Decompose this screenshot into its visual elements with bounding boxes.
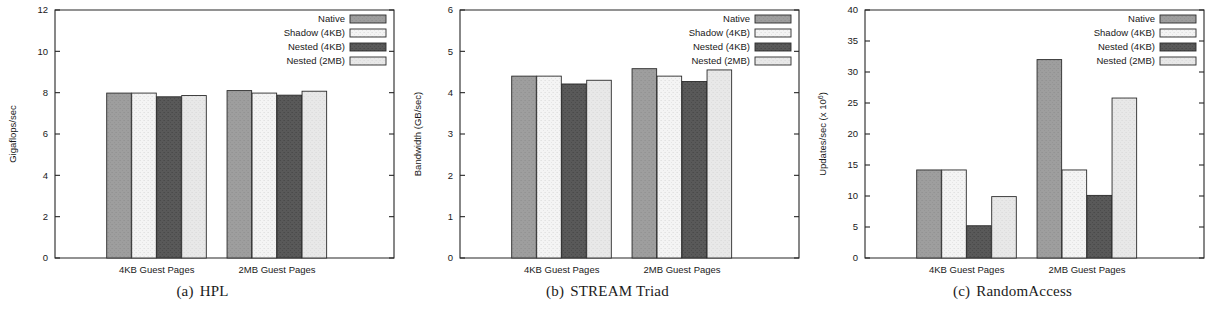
legend-swatch: [1160, 15, 1196, 23]
bar: [1112, 98, 1137, 258]
bar: [182, 96, 207, 258]
bar: [632, 69, 657, 258]
caption-text: RandomAccess: [976, 283, 1072, 299]
bar: [562, 84, 587, 258]
y-tick-label: 5: [853, 221, 858, 232]
plot-area-randomaccess: 0510152025303540Updates/sec (x 106)4KB G…: [810, 0, 1215, 280]
x-category-label: 4KB Guest Pages: [524, 264, 600, 275]
y-axis-title: Updates/sec (x 106): [817, 92, 829, 176]
caption-text: HPL: [200, 283, 229, 299]
legend-swatch: [350, 43, 386, 51]
panel-caption-randomaccess: (c)RandomAccess: [810, 283, 1215, 300]
bar: [132, 93, 157, 258]
panel-caption-hpl: (a)HPL: [0, 283, 405, 300]
bar: [1037, 60, 1062, 258]
legend-label: Native: [318, 13, 345, 24]
x-category-label: 2MB Guest Pages: [1048, 264, 1125, 275]
y-tick-label: 15: [847, 159, 858, 170]
bar: [107, 93, 132, 258]
bar: [967, 226, 992, 258]
y-tick-label: 25: [847, 97, 858, 108]
legend-label: Shadow (4KB): [1094, 27, 1155, 38]
x-category-label: 4KB Guest Pages: [119, 264, 195, 275]
bar: [1062, 170, 1087, 258]
y-tick-label: 0: [853, 252, 858, 263]
legend-label: Shadow (4KB): [284, 27, 345, 38]
bar: [512, 76, 537, 258]
caption-tag: (c): [953, 283, 970, 299]
figure-row: 024681012Gigaflops/sec4KB Guest Pages2MB…: [0, 0, 1215, 317]
y-axis-title: Bandwidth (GB/sec): [412, 92, 423, 176]
plot-area-hpl: 024681012Gigaflops/sec4KB Guest Pages2MB…: [0, 0, 405, 280]
legend-label: Nested (4KB): [1098, 41, 1155, 52]
y-tick-label: 4: [448, 87, 453, 98]
caption-text: STREAM Triad: [570, 283, 669, 299]
bar: [537, 76, 562, 258]
legend-swatch: [350, 29, 386, 37]
legend-swatch: [1160, 43, 1196, 51]
y-axis-title: Gigaflops/sec: [7, 105, 18, 163]
y-tick-label: 3: [448, 128, 453, 139]
legend-swatch: [1160, 29, 1196, 37]
bar: [1087, 195, 1112, 258]
y-tick-label: 30: [847, 66, 858, 77]
legend-label: Nested (2MB): [1096, 55, 1155, 66]
y-tick-label: 0: [43, 252, 48, 263]
chart-panel-randomaccess: 0510152025303540Updates/sec (x 106)4KB G…: [810, 0, 1215, 317]
y-tick-label: 10: [847, 190, 858, 201]
bar: [992, 197, 1017, 258]
y-tick-label: 5: [448, 46, 453, 57]
caption-tag: (b): [546, 283, 564, 299]
bar: [587, 80, 612, 258]
bar-chart-stream-triad: 0123456Bandwidth (GB/sec)4KB Guest Pages…: [405, 0, 810, 280]
legend-swatch: [350, 57, 386, 65]
legend-label: Nested (4KB): [288, 41, 345, 52]
y-tick-label: 8: [43, 87, 48, 98]
legend-swatch: [1160, 57, 1196, 65]
bar: [157, 97, 182, 258]
bar: [707, 70, 732, 258]
chart-panel-hpl: 024681012Gigaflops/sec4KB Guest Pages2MB…: [0, 0, 405, 317]
chart-panel-stream-triad: 0123456Bandwidth (GB/sec)4KB Guest Pages…: [405, 0, 810, 317]
y-tick-label: 4: [43, 170, 48, 181]
y-tick-label: 6: [448, 4, 453, 15]
caption-tag: (a): [176, 283, 193, 299]
legend-swatch: [755, 43, 791, 51]
y-tick-label: 2: [43, 211, 48, 222]
y-tick-label: 35: [847, 35, 858, 46]
bar: [682, 82, 707, 258]
y-tick-label: 0: [448, 252, 453, 263]
bar-chart-hpl: 024681012Gigaflops/sec4KB Guest Pages2MB…: [0, 0, 405, 280]
y-tick-label: 40: [847, 4, 858, 15]
y-tick-label: 12: [37, 4, 48, 15]
legend-label: Nested (4KB): [693, 41, 750, 52]
legend-swatch: [350, 15, 386, 23]
legend-label: Nested (2MB): [691, 55, 750, 66]
plot-area-stream-triad: 0123456Bandwidth (GB/sec)4KB Guest Pages…: [405, 0, 810, 280]
legend-swatch: [755, 15, 791, 23]
y-tick-label: 2: [448, 170, 453, 181]
y-tick-label: 1: [448, 211, 453, 222]
panel-caption-stream-triad: (b)STREAM Triad: [405, 283, 810, 300]
legend-swatch: [755, 57, 791, 65]
legend-label: Nested (2MB): [286, 55, 345, 66]
bar: [657, 76, 682, 258]
x-category-label: 2MB Guest Pages: [238, 264, 315, 275]
legend-label: Shadow (4KB): [689, 27, 750, 38]
y-tick-label: 6: [43, 128, 48, 139]
legend-label: Native: [723, 13, 750, 24]
bar-chart-randomaccess: 0510152025303540Updates/sec (x 106)4KB G…: [810, 0, 1215, 280]
bar: [917, 170, 942, 258]
y-tick-label: 10: [37, 46, 48, 57]
x-category-label: 2MB Guest Pages: [643, 264, 720, 275]
bar: [942, 170, 967, 258]
bar: [252, 93, 277, 258]
legend-swatch: [755, 29, 791, 37]
bar: [302, 91, 327, 258]
legend-label: Native: [1128, 13, 1155, 24]
bar: [227, 91, 252, 258]
bar: [277, 95, 302, 258]
y-tick-label: 20: [847, 128, 858, 139]
x-category-label: 4KB Guest Pages: [929, 264, 1005, 275]
